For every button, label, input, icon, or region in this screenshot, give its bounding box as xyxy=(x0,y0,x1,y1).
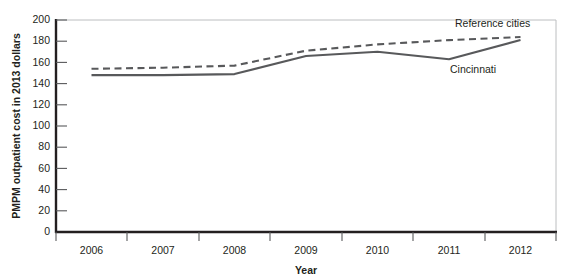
x-tick-label-2011: 2011 xyxy=(438,244,461,256)
x-tick-label-2009: 2009 xyxy=(294,244,318,256)
y-axis-title: PMPM outpatient cost in 2013 dollars xyxy=(10,33,22,219)
y-tick-label-120: 120 xyxy=(32,98,50,110)
y-tick-label-180: 180 xyxy=(32,34,50,46)
x-tick-label-2012: 2012 xyxy=(509,244,533,256)
y-tick-label-0: 0 xyxy=(44,225,50,237)
y-tick-label-20: 20 xyxy=(38,204,50,216)
x-tick-label-2007: 2007 xyxy=(151,244,175,256)
chart-figure: 200 180 160 140 120 100 80 60 40 20 0 20… xyxy=(0,0,583,280)
y-tick-label-140: 140 xyxy=(32,77,50,89)
x-tick-label-2006: 2006 xyxy=(80,244,104,256)
chart-background xyxy=(0,0,583,280)
y-tick-label-80: 80 xyxy=(38,140,50,152)
x-tick-label-2010: 2010 xyxy=(366,244,390,256)
y-tick-label-200: 200 xyxy=(32,13,50,25)
line-chart: 200 180 160 140 120 100 80 60 40 20 0 20… xyxy=(0,0,583,280)
y-tick-label-60: 60 xyxy=(38,162,50,174)
y-tick-label-100: 100 xyxy=(32,119,50,131)
series-label-reference-cities: Reference cities xyxy=(455,17,530,29)
x-tick-label-2008: 2008 xyxy=(223,244,247,256)
x-axis-title: Year xyxy=(295,264,317,276)
y-tick-label-40: 40 xyxy=(38,183,50,195)
series-label-cincinnati: Cincinnati xyxy=(450,63,496,75)
y-tick-label-160: 160 xyxy=(32,56,50,68)
